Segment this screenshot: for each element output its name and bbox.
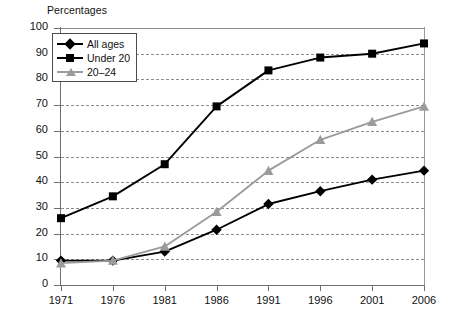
legend-item-all-ages[interactable]: All ages [57, 36, 124, 51]
data-point-under-20-1996 [316, 54, 324, 62]
data-point-20-24-1991 [263, 166, 273, 175]
data-point-all-ages-2006 [419, 165, 429, 175]
square-marker-icon [66, 54, 74, 62]
legend-label-under-20: Under 20 [87, 52, 130, 64]
data-point-all-ages-1986 [211, 225, 221, 235]
triangle-marker-icon [66, 68, 76, 76]
data-point-under-20-1991 [264, 66, 272, 74]
data-point-all-ages-1996 [315, 186, 325, 196]
data-point-under-20-2001 [368, 50, 376, 58]
line-chart: Percentages 0102030405060708090100 19711… [0, 0, 463, 319]
legend-swatch-under-20 [57, 52, 83, 64]
series-line-20-24 [61, 106, 424, 263]
legend-swatch-20-24 [57, 66, 83, 78]
diamond-marker-icon [64, 38, 75, 49]
series-20-24 [56, 101, 429, 267]
series-all-ages [56, 165, 429, 265]
data-point-under-20-2006 [420, 39, 428, 47]
data-point-20-24-2006 [419, 101, 429, 110]
legend-item-20-24[interactable]: 20–24 [57, 64, 116, 79]
legend-item-under-20[interactable]: Under 20 [57, 50, 130, 65]
data-point-under-20-1976 [109, 192, 117, 200]
legend-label-all-ages: All ages [87, 38, 124, 50]
data-point-under-20-1986 [213, 102, 221, 110]
legend-swatch-all-ages [57, 38, 83, 50]
data-point-under-20-1971 [57, 214, 65, 222]
data-point-under-20-1981 [161, 160, 169, 168]
data-point-20-24-1981 [160, 241, 170, 250]
series-line-all-ages [61, 171, 424, 261]
data-point-all-ages-1991 [263, 199, 273, 209]
data-point-all-ages-2001 [367, 174, 377, 184]
legend-label-20-24: 20–24 [87, 66, 116, 78]
chart-legend: All ages Under 20 20–24 [52, 33, 137, 82]
